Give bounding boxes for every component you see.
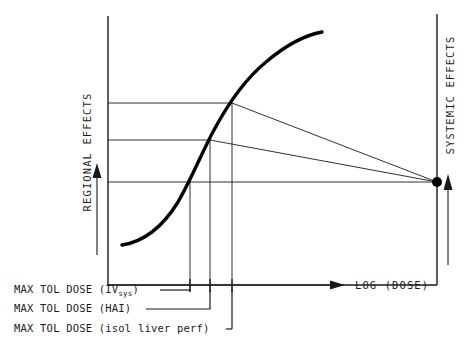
dose-label-ivsys-subscript: sys: [118, 289, 132, 298]
convergence-point-dot: [432, 177, 442, 187]
x-axis-label: LOG (DOSE): [355, 279, 429, 291]
dose-response-figure: REGIONAL EFFECTS SYSTEMIC EFFECTS LOG (D…: [0, 0, 472, 348]
dose-label-hai: MAX TOL DOSE (HAI): [14, 302, 131, 314]
y-axis-left-arrow-head: [93, 163, 102, 178]
dose-label-ivsys-suffix: ): [133, 283, 140, 295]
y-axis-right-label: SYSTEMIC EFFECTS: [444, 36, 456, 155]
dose-response-curve: [122, 32, 322, 245]
dose-label-ivsys-prefix: MAX TOL DOSE (IV: [14, 283, 119, 295]
convergence-line-isol-liver-perf: [232, 103, 437, 182]
convergence-line-hai: [210, 140, 437, 182]
x-axis-arrow-head: [330, 281, 345, 290]
dose-label-isol-liver-perf: MAX TOL DOSE (isol liver perf): [14, 322, 210, 334]
y-axis-left-label: REGIONAL EFFECTS: [81, 93, 93, 212]
leader-line-hai: [146, 290, 210, 309]
y-axis-right-arrow-head: [444, 174, 453, 190]
